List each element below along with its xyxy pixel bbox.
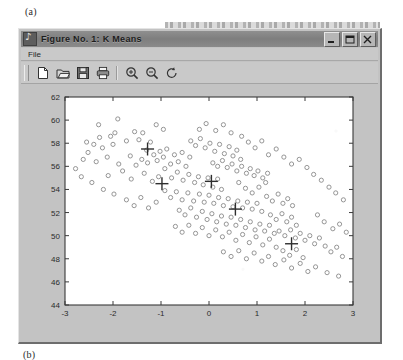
scatter-plot: -3-2-1012344464850525456586062 (21, 85, 379, 341)
svg-text:62: 62 (51, 93, 60, 102)
axes-background (65, 97, 353, 305)
figure-caption-b: (b) (23, 349, 35, 360)
svg-text:60: 60 (51, 116, 60, 125)
svg-text:44: 44 (51, 301, 60, 310)
svg-text:-3: -3 (61, 309, 69, 318)
open-folder-icon[interactable] (53, 64, 72, 82)
maximize-icon[interactable] (342, 32, 358, 47)
zoom-in-icon[interactable] (122, 64, 141, 82)
svg-text:54: 54 (51, 185, 60, 194)
figure-window: Figure No. 1: K Means File (18, 28, 382, 344)
svg-text:50: 50 (51, 232, 60, 241)
toolbar-separator (116, 66, 118, 80)
svg-text:46: 46 (51, 278, 60, 287)
svg-text:48: 48 (51, 255, 60, 264)
window-buttons (324, 32, 376, 47)
new-page-icon[interactable] (33, 64, 52, 82)
svg-text:52: 52 (51, 209, 60, 218)
title-bar: Figure No. 1: K Means (21, 31, 378, 47)
figure-caption-a: (a) (25, 6, 37, 17)
toolbar (21, 62, 378, 84)
menu-bar: File (21, 48, 378, 61)
close-icon[interactable] (360, 32, 376, 47)
minimize-icon[interactable] (324, 32, 340, 47)
svg-text:2: 2 (303, 309, 308, 318)
rotate-icon[interactable] (162, 64, 181, 82)
toolbar-grip[interactable] (24, 65, 29, 81)
menu-item-file[interactable]: File (25, 49, 44, 60)
printer-icon[interactable] (93, 64, 112, 82)
svg-text:1: 1 (255, 309, 260, 318)
svg-text:58: 58 (51, 139, 60, 148)
svg-text:0: 0 (207, 309, 212, 318)
zoom-out-icon[interactable] (142, 64, 161, 82)
svg-text:-1: -1 (157, 309, 165, 318)
plot-canvas: -3-2-1012344464850525456586062 (21, 85, 379, 341)
save-disk-icon[interactable] (73, 64, 92, 82)
svg-text:56: 56 (51, 162, 60, 171)
svg-text:3: 3 (351, 309, 356, 318)
window-title: Figure No. 1: K Means (41, 34, 142, 44)
svg-text:-2: -2 (109, 309, 117, 318)
matlab-figure-icon (23, 32, 37, 46)
